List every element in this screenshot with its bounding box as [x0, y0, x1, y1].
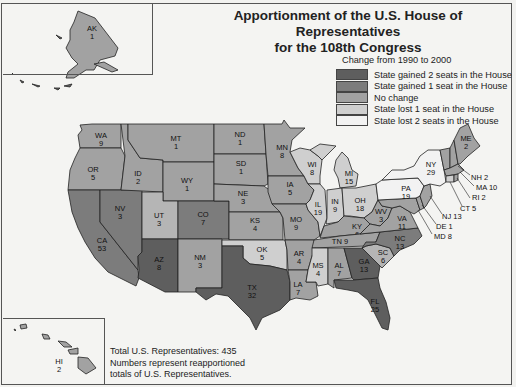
state-seats: 6	[381, 256, 385, 265]
state-seats: 3	[118, 212, 122, 221]
title-line-2: for the 108th Congress	[180, 40, 516, 56]
legend-item-lost-2: State lost 2 seats in the House	[336, 115, 514, 127]
state-seats: 11	[398, 222, 406, 231]
callout-NJ: NJ 13	[442, 212, 462, 221]
state-seats: 1	[238, 138, 242, 147]
state-MT[interactable]: MT 1	[128, 124, 214, 162]
state-seats: 9	[333, 205, 337, 214]
state-seats: 8	[280, 151, 284, 160]
state-KS[interactable]: KS 4	[229, 212, 283, 240]
state-seats: 4	[253, 224, 257, 233]
state-seats: 18	[356, 204, 364, 213]
state-seats: 9	[294, 223, 298, 232]
state-WY[interactable]: WY 1	[163, 162, 214, 201]
state-FL[interactable]: FL 25	[334, 278, 390, 330]
legend-swatch	[336, 104, 368, 115]
legend-item-gained-2: State gained 2 seats in the House	[336, 69, 514, 81]
state-seats: 13	[396, 242, 404, 251]
total-representatives: Total U.S. Representatives: 435	[110, 346, 245, 358]
state-PA[interactable]: PA 19	[376, 178, 424, 201]
state-CT[interactable]	[446, 175, 454, 182]
legend-label: State lost 2 seats in the House	[374, 116, 499, 126]
state-seats: 32	[248, 291, 256, 300]
legend-title: Change from 1990 to 2000	[342, 55, 514, 65]
state-RI[interactable]	[454, 174, 458, 182]
state-seats: 5	[260, 253, 264, 262]
state-AZ[interactable]: AZ 8	[138, 239, 178, 292]
state-seats: 7	[296, 288, 300, 297]
map-title: Apportionment of the U.S. House of Repre…	[180, 8, 516, 56]
legend-label: State gained 1 seat in the House	[374, 81, 507, 91]
callout-NH: NH 2	[471, 173, 488, 182]
state-seats: 9	[99, 139, 103, 148]
state-seats: 3	[157, 219, 161, 228]
state-seats: 7	[201, 218, 205, 227]
state-seats: 8	[310, 168, 314, 177]
legend: Change from 1990 to 2000 State gained 2 …	[336, 55, 514, 127]
state-CO[interactable]: CO 7	[178, 201, 229, 239]
state-seats: 5	[288, 188, 292, 197]
legend-label: No change	[374, 93, 418, 103]
state-seats: 19	[402, 192, 410, 201]
state-seats: 1	[174, 142, 178, 151]
state-seats: 4	[297, 257, 301, 266]
state-NM[interactable]: NM 3	[178, 239, 222, 292]
state-label: TN 9	[332, 237, 348, 246]
callout-DE: DE 1	[436, 222, 453, 231]
state-seats: 2	[464, 142, 468, 151]
callout-MD: MD 8	[434, 232, 452, 241]
state-seats: 1	[185, 184, 189, 193]
alaska-inset-frame	[3, 3, 153, 75]
state-seats: 29	[427, 168, 435, 177]
state-seats: 2	[136, 177, 140, 186]
legend-item-no-change: No change	[336, 92, 514, 104]
legend-swatch	[336, 69, 368, 80]
state-seats: 3	[379, 215, 383, 224]
state-seats: 4	[316, 269, 320, 278]
state-OR[interactable]: OR 5	[68, 148, 125, 190]
callout-CT: CT 5	[460, 204, 476, 213]
callout-MA: MA 10	[476, 183, 497, 192]
title-line-1: Apportionment of the U.S. House of Repre…	[180, 8, 516, 40]
state-seats: 3	[241, 197, 245, 206]
legend-swatch	[336, 81, 368, 92]
map-notes: Total U.S. Representatives: 435 Numbers …	[110, 346, 245, 381]
state-seats: 19	[314, 208, 322, 217]
legend-item-gained-1: State gained 1 seat in the House	[336, 81, 514, 93]
state-SD[interactable]: SD 1	[214, 154, 268, 186]
state-seats: 13	[360, 265, 368, 274]
state-seats: 15	[345, 177, 353, 186]
state-seats: 7	[337, 269, 341, 278]
note-line-2: Numbers represent reapportioned	[110, 358, 245, 370]
state-ND[interactable]: ND 1	[214, 124, 266, 154]
legend-label: State gained 2 seats in the House	[374, 70, 512, 80]
state-seats: 5	[91, 173, 95, 182]
note-line-3: totals of U.S. Representatives.	[110, 369, 245, 381]
state-seats: 1	[239, 167, 243, 176]
legend-item-lost-1: State lost 1 seat in the House	[336, 104, 514, 116]
callout-RI: RI 2	[472, 193, 486, 202]
legend-label: State lost 1 seat in the House	[374, 104, 494, 114]
state-seats: 8	[157, 263, 161, 272]
state-seats: 53	[98, 244, 106, 253]
state-ME[interactable]: ME 2	[454, 124, 480, 164]
legend-swatch	[336, 92, 368, 103]
hawaii-inset-frame	[3, 318, 105, 385]
state-WA[interactable]: WA 9	[78, 124, 121, 148]
state-seats: 25	[371, 305, 379, 314]
state-seats: 3	[198, 261, 202, 270]
legend-swatch	[336, 115, 368, 126]
